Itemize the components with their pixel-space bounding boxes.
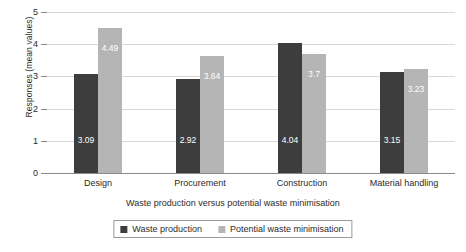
- bar-value-label: 3.23: [404, 84, 428, 94]
- y-axis-tick-label: 4: [22, 39, 38, 49]
- bar[interactable]: 2.92: [176, 79, 200, 173]
- y-axis-tick-label: 3: [22, 71, 38, 81]
- legend-item-waste-production[interactable]: Waste production: [120, 224, 202, 234]
- bar[interactable]: 4.04: [278, 43, 302, 173]
- bar[interactable]: 3.23: [404, 69, 428, 173]
- plot-area: 3.094.492.923.644.043.73.153.23: [47, 12, 455, 173]
- bar-value-label: 3.7: [302, 69, 326, 79]
- gridline: [47, 12, 455, 13]
- y-axis-tick-label: 1: [22, 136, 38, 146]
- y-axis-tick-label: 2: [22, 104, 38, 114]
- x-axis-category-label: Material handling: [370, 178, 439, 188]
- bar[interactable]: 3.64: [200, 56, 224, 173]
- gridline: [47, 173, 455, 174]
- legend-label: Potential waste minimisation: [230, 224, 344, 234]
- bar-chart: Responses (mean values) 012345 3.094.492…: [0, 0, 466, 252]
- bar-value-label: 2.92: [176, 135, 200, 145]
- x-axis-title: Waste production versus potential waste …: [0, 198, 466, 208]
- y-axis-tick-label: 5: [22, 7, 38, 17]
- legend-label: Waste production: [132, 224, 202, 234]
- x-axis-category-label: Design: [84, 178, 112, 188]
- bar-value-label: 3.09: [74, 135, 98, 145]
- bar[interactable]: 3.7: [302, 54, 326, 173]
- bar[interactable]: 3.09: [74, 74, 98, 173]
- x-axis-category-label: Procurement: [174, 178, 226, 188]
- x-axis-category-label: Construction: [277, 178, 328, 188]
- bar-value-label: 3.15: [380, 135, 404, 145]
- bar[interactable]: 3.15: [380, 72, 404, 173]
- y-axis-tick-label: 0: [22, 168, 38, 178]
- bar[interactable]: 4.49: [98, 28, 122, 173]
- bar-value-label: 3.64: [200, 71, 224, 81]
- legend-item-potential-waste-minimisation[interactable]: Potential waste minimisation: [218, 224, 344, 234]
- legend-swatch-icon: [120, 226, 127, 233]
- bar-value-label: 4.04: [278, 135, 302, 145]
- legend: Waste production Potential waste minimis…: [113, 220, 352, 238]
- legend-swatch-icon: [218, 226, 225, 233]
- bar-value-label: 4.49: [98, 43, 122, 53]
